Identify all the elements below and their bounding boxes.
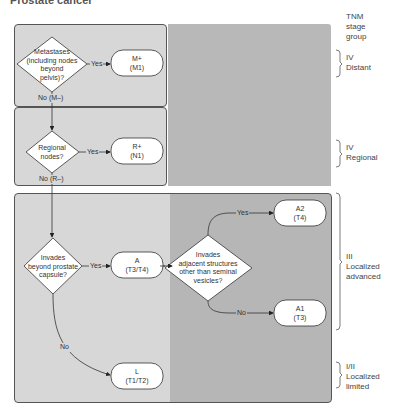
stage-header: TNM stage group [346, 12, 366, 42]
decision-line: Invades [168, 251, 248, 260]
outcome-line: (N1) [111, 152, 163, 161]
decision-line: Metastases [22, 48, 82, 57]
stage-roman: I/II [346, 362, 380, 372]
decision-regional: Regional nodes? [27, 144, 77, 161]
outcome-l: L (T1/T2) [111, 368, 163, 385]
outcome-line: A2 [274, 205, 326, 214]
decision-invades-capsule: Invades beyond prostate capsule? [23, 254, 83, 280]
stage-name: limited [346, 382, 380, 392]
stage-header-line: TNM [346, 12, 366, 22]
stage-roman: III [346, 252, 381, 262]
stage-roman: IV [346, 53, 371, 63]
outcome-line: (T3/T4) [111, 266, 163, 275]
decision-line: (including nodes [22, 57, 82, 66]
outcome-line: (T1/T2) [111, 377, 163, 386]
outcome-m-plus: M+ (M1) [111, 55, 163, 72]
decision-line: nodes? [27, 153, 77, 162]
decision-line: beyond [22, 65, 82, 74]
decision-line: vesicles? [168, 277, 248, 286]
edge-yes-metastases: Yes [90, 60, 103, 69]
decision-line: other than seminal [168, 268, 248, 277]
stage-i-ii-localized-limited: I/II Localized limited [346, 362, 380, 392]
stage-name: Localized [346, 372, 380, 382]
edge-yes-adjacent: Yes [236, 209, 249, 218]
stage-iv-regional: IV Regional [346, 143, 378, 163]
decision-line: capsule? [23, 271, 83, 280]
outcome-a1: A1 (T3) [274, 305, 326, 322]
decision-metastases: Metastases (including nodes beyond pelvi… [22, 48, 82, 82]
outcome-line: (T3) [274, 314, 326, 323]
outcome-line: L [111, 368, 163, 377]
decision-line: adjacent structures [168, 260, 248, 269]
outcome-line: R+ [111, 143, 163, 152]
decision-line: Invades [23, 254, 83, 263]
stage-header-line: stage [346, 22, 366, 32]
stage-roman: IV [346, 143, 378, 153]
stage-name: Regional [346, 153, 378, 163]
decision-line: beyond prostate [23, 263, 83, 272]
edge-no-capsule: No [59, 343, 70, 352]
edge-no-r: No (R–) [38, 175, 65, 184]
stage-name: Distant [346, 63, 371, 73]
outcome-line: (T4) [274, 214, 326, 223]
outcome-line: A [111, 257, 163, 266]
decision-line: Regional [27, 144, 77, 153]
outcome-a: A (T3/T4) [111, 257, 163, 274]
stage-name: advanced [346, 272, 381, 282]
edge-yes-regional: Yes [86, 148, 99, 157]
outcome-r-plus: R+ (N1) [111, 143, 163, 160]
edge-yes-capsule: Yes [89, 262, 102, 271]
outcome-line: A1 [274, 305, 326, 314]
edge-no-m: No (M–) [37, 94, 64, 103]
edge-no-adjacent: No [236, 309, 247, 318]
outcome-line: (M1) [111, 64, 163, 73]
outcome-line: M+ [111, 55, 163, 64]
stage-iii-localized-advanced: III Localized advanced [346, 252, 381, 282]
stage-iv-distant: IV Distant [346, 53, 371, 73]
outcome-a2: A2 (T4) [274, 205, 326, 222]
stage-header-line: group [346, 32, 366, 42]
decision-line: pelvis)? [22, 74, 82, 83]
stage-name: Localized [346, 262, 381, 272]
decision-invades-adjacent: Invades adjacent structures other than s… [168, 251, 248, 285]
